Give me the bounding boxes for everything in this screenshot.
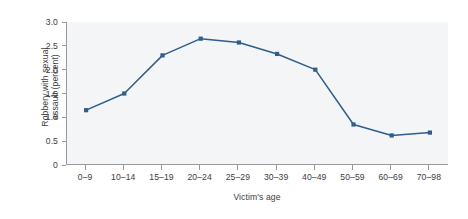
data-point-marker <box>351 122 355 126</box>
chart-figure: Robbery with sexual assault (percent) 00… <box>0 0 468 219</box>
y-axis-tick-label: 0.5 <box>28 136 58 146</box>
x-axis-tick-label: 20–24 <box>187 172 211 182</box>
x-axis-tick-label: 60–69 <box>378 172 402 182</box>
x-axis-tick-label: 0–9 <box>78 172 93 182</box>
x-axis-tick-mark <box>123 165 124 170</box>
x-axis-tick-label: 40–49 <box>302 172 326 182</box>
x-axis-tick-label: 70–98 <box>417 172 441 182</box>
y-axis-tick-label: 0 <box>28 160 58 170</box>
data-point-marker <box>237 40 241 44</box>
data-point-marker <box>275 52 279 56</box>
y-axis-tick-label: 2.5 <box>28 41 58 51</box>
series-markers <box>84 37 432 138</box>
data-point-marker <box>313 68 317 72</box>
x-axis-tick-mark <box>390 165 391 170</box>
y-axis-tick-labels: 00.51.01.52.02.53.0 <box>28 0 58 219</box>
line-series-svg <box>67 22 449 165</box>
x-axis-tick-mark <box>199 165 200 170</box>
data-point-marker <box>84 108 88 112</box>
data-point-marker <box>428 130 432 134</box>
y-axis-tick-label: 1.0 <box>28 112 58 122</box>
x-axis-tick-mark <box>276 165 277 170</box>
x-axis-tick-mark <box>352 165 353 170</box>
x-axis-tick-mark <box>237 165 238 170</box>
x-axis-tick-mark <box>161 165 162 170</box>
x-axis-tick-mark <box>428 165 429 170</box>
y-axis-tick-label: 2.0 <box>28 65 58 75</box>
y-axis-tick-label: 3.0 <box>28 17 58 27</box>
data-point-marker <box>199 37 203 41</box>
data-point-marker <box>160 53 164 57</box>
plot-area <box>66 22 448 165</box>
x-axis-tick-mark <box>85 165 86 170</box>
x-axis-tick-label: 30–39 <box>264 172 288 182</box>
x-axis-tick-label: 50–59 <box>340 172 364 182</box>
data-point-marker <box>390 133 394 137</box>
data-point-marker <box>122 91 126 95</box>
y-axis-tick-label: 1.5 <box>28 89 58 99</box>
x-axis-tick-label: 25–29 <box>226 172 250 182</box>
x-axis-tick-mark <box>314 165 315 170</box>
x-axis-tick-label: 15–19 <box>149 172 173 182</box>
series-line <box>86 39 430 136</box>
x-axis-tick-label: 10–14 <box>111 172 135 182</box>
x-axis-title: Victim's age <box>66 192 448 202</box>
